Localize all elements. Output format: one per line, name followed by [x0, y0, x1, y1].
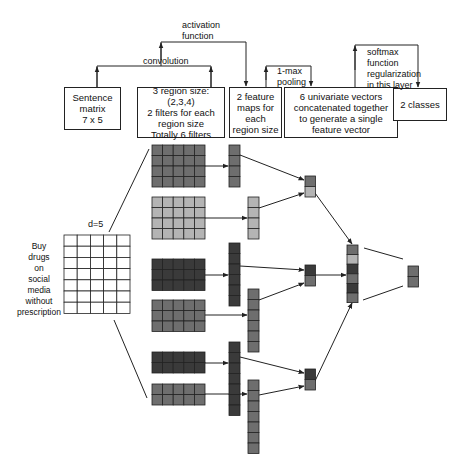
filter-cell	[163, 156, 174, 167]
feature-map-cell	[229, 243, 240, 254]
filter-cell	[173, 218, 184, 229]
filter-cell	[194, 270, 205, 281]
feature-map-cell	[248, 197, 259, 208]
filter-cell	[163, 229, 174, 240]
feature-map-cell	[248, 229, 259, 240]
filter-cell	[163, 352, 174, 363]
sentence-cell	[104, 280, 117, 291]
filter-cell	[194, 352, 205, 363]
filter-cell	[194, 280, 205, 291]
filter-cell	[152, 321, 163, 332]
filter-cell	[194, 300, 205, 311]
feature-map-cell	[248, 321, 259, 332]
feature-map-cell	[248, 422, 259, 433]
feature-map-cell	[229, 384, 240, 395]
sentence-cell	[117, 280, 130, 291]
feature-maps-group	[229, 145, 259, 454]
sentence-words: Buy drugs on social media without prescr…	[14, 241, 64, 318]
sentence-cell	[104, 302, 117, 313]
pooled-cell	[305, 369, 316, 380]
filter-cell	[173, 363, 184, 374]
sentence-cell	[104, 246, 117, 257]
sentence-cell	[117, 302, 130, 313]
feature-map-cell	[248, 218, 259, 229]
sentence-cell	[90, 291, 103, 302]
sentence-cell	[90, 269, 103, 280]
feature-map-cell	[248, 380, 259, 391]
filter-cell	[173, 145, 184, 156]
filter-cell	[194, 363, 205, 374]
filter-cell	[163, 197, 174, 208]
sentence-cell	[64, 235, 77, 246]
sentence-cell	[64, 257, 77, 268]
filter-cell	[194, 197, 205, 208]
sentence-matrix-grid	[64, 235, 130, 313]
filter-cell	[163, 208, 174, 219]
filter-cell	[184, 300, 195, 311]
sentence-cell	[64, 291, 77, 302]
feature-map-cell	[248, 412, 259, 423]
filter-cell	[163, 270, 174, 281]
feature-map-cell	[248, 391, 259, 402]
feature-map-cell	[229, 363, 240, 374]
sentence-cell	[64, 280, 77, 291]
filter-cell	[184, 270, 195, 281]
pooled-cell	[305, 276, 316, 287]
filter-cell	[152, 352, 163, 363]
feature-map-cell	[229, 156, 240, 167]
output-cell	[408, 266, 419, 277]
univariate-vectors-box: 6 univariate vectors concatenated togeth…	[284, 87, 398, 138]
sentence-cell	[90, 302, 103, 313]
filter-cell	[184, 197, 195, 208]
filter-cell	[194, 166, 205, 177]
sentence-cell	[77, 291, 90, 302]
filter-cell	[194, 259, 205, 270]
sentence-cell	[117, 235, 130, 246]
feature-map-cell	[229, 296, 240, 307]
filter-cell	[184, 311, 195, 322]
filter-cell	[163, 363, 174, 374]
sentence-cell	[104, 235, 117, 246]
filter-cell	[184, 156, 195, 167]
sentence-cell	[104, 269, 117, 280]
softmax-label: softmax function regularization in this …	[367, 47, 421, 91]
concat-cell	[347, 255, 358, 265]
filter-cell	[184, 218, 195, 229]
filter-cell	[173, 259, 184, 270]
concatenated-vector	[347, 245, 358, 303]
filter-cell	[184, 145, 195, 156]
filter-cell	[152, 300, 163, 311]
filter-cell	[152, 197, 163, 208]
feature-map-cell	[248, 208, 259, 219]
filter-cell	[173, 384, 184, 395]
pooled-vectors-group	[305, 176, 316, 390]
filter-cell	[173, 311, 184, 322]
filter-cell	[152, 384, 163, 395]
filter-cell	[184, 321, 195, 332]
filter-cell	[163, 280, 174, 291]
pooled-cell	[305, 380, 316, 391]
filter-cell	[194, 384, 205, 395]
sentence-cell	[77, 302, 90, 313]
filter-cell	[184, 166, 195, 177]
filter-cell	[152, 145, 163, 156]
feature-maps-box: 2 feature maps for each region size	[229, 87, 282, 138]
sentence-cell	[77, 235, 90, 246]
filter-cell	[173, 321, 184, 332]
sentence-cell	[64, 302, 77, 313]
concat-arrows	[315, 193, 352, 381]
filter-cell	[194, 145, 205, 156]
filter-cell	[173, 229, 184, 240]
feature-map-cell	[248, 401, 259, 412]
feature-map-cell	[229, 264, 240, 275]
filter-cell	[173, 395, 184, 406]
filter-cell	[152, 311, 163, 322]
filters-group	[152, 145, 205, 405]
filter-cell	[163, 145, 174, 156]
sentence-cell	[90, 246, 103, 257]
sentence-cell	[117, 257, 130, 268]
feature-map-cell	[248, 331, 259, 342]
filter-cell	[194, 321, 205, 332]
concat-cell	[347, 293, 358, 303]
filter-cell	[184, 352, 195, 363]
